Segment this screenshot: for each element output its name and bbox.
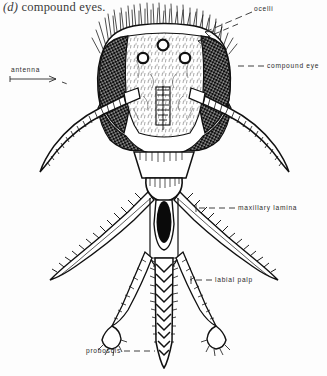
labial-palp-right-tip bbox=[207, 326, 226, 349]
ocellus-right bbox=[180, 53, 190, 63]
labial-palp-left bbox=[98, 252, 152, 356]
leader-antenna bbox=[10, 76, 70, 85]
label-proboscis: proboscis bbox=[86, 347, 121, 354]
label-ocelli: ocelli bbox=[254, 5, 274, 12]
insect-head-illustration bbox=[0, 0, 327, 376]
figure-page: (d) compound eyes. bbox=[0, 0, 327, 376]
proboscis bbox=[150, 258, 178, 368]
label-compound-eye: compound eye bbox=[267, 62, 319, 69]
labial-palp-left-tip bbox=[102, 326, 121, 349]
ocellus-median bbox=[158, 40, 169, 51]
label-labial-palp: labial palp bbox=[215, 276, 253, 283]
head-capsule bbox=[40, 3, 289, 368]
ocellus-left bbox=[138, 53, 148, 63]
label-antenna: antenna bbox=[11, 66, 40, 73]
labial-palp-right bbox=[176, 252, 230, 356]
leader-maxillary-lamina bbox=[196, 204, 235, 212]
label-maxillary-lamina: maxillary lamina bbox=[238, 204, 297, 211]
oral-cavity-dark bbox=[157, 201, 172, 243]
